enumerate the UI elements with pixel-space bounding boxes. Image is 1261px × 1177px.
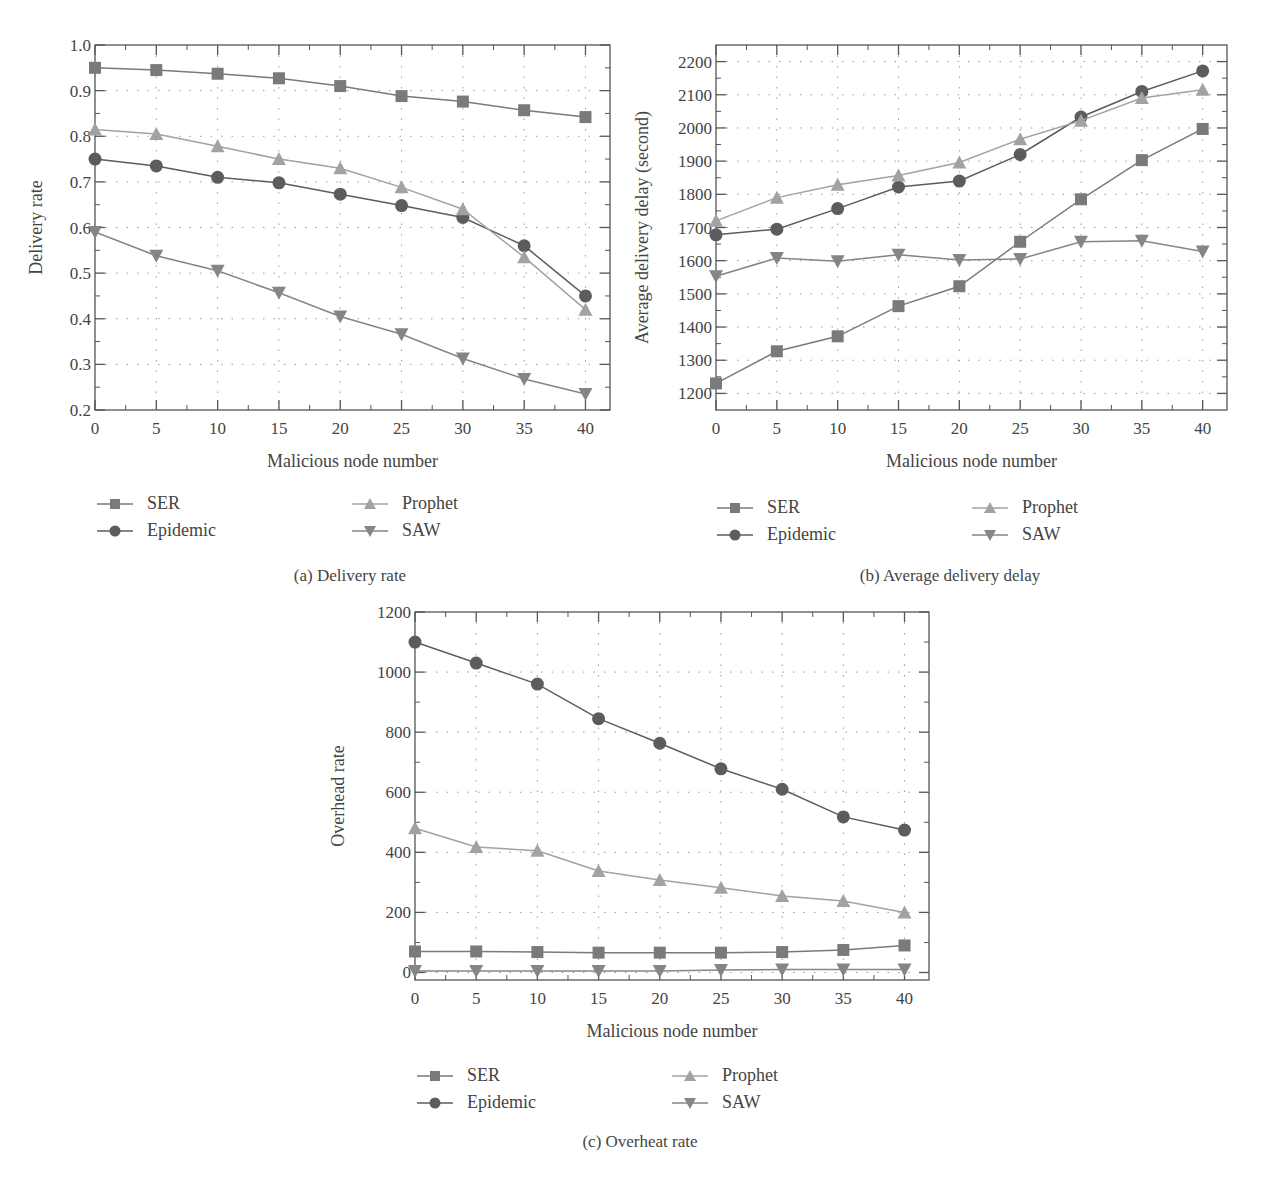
square-marker-icon [832,330,844,342]
x-tick-label: 10 [209,419,226,438]
x-tick-label: 20 [332,419,349,438]
legend-b: SER Epidemic Prophet SAW [715,497,1215,557]
square-marker-icon [771,345,783,357]
y-tick-label: 0.5 [70,264,91,283]
triangle-up-marker-icon [517,250,531,263]
square-marker-icon [89,62,101,74]
y-tick-label: 1700 [678,219,712,238]
triangle-down-marker-icon [211,265,225,278]
plot-frame [95,45,610,410]
circle-marker-icon [653,737,666,750]
triangle-up-marker-icon [1013,132,1027,145]
x-tick-label: 5 [152,419,161,438]
circle-marker-icon [1196,64,1209,77]
circle-marker-icon [898,824,911,837]
grid-lines [716,45,1227,410]
circle-marker-icon [89,153,102,166]
triangle-down-marker-icon [578,388,592,401]
circle-marker-icon [710,228,723,241]
circle-marker-icon [770,223,783,236]
y-axis-label: Delivery rate [26,180,46,274]
legend-c: SER Epidemic Prophet SAW [415,1065,915,1125]
triangle-up-marker-icon [350,497,390,511]
caption-a: (a) Delivery rate [200,566,500,586]
x-tick-label: 20 [651,989,668,1008]
y-tick-label: 600 [386,783,412,802]
square-marker-icon [430,1071,440,1081]
y-tick-label: 1.0 [70,36,91,55]
square-marker-icon [470,945,482,957]
triangle-down-marker-icon [350,524,390,538]
x-tick-label: 30 [1073,419,1090,438]
plot-frame [415,612,929,980]
triangle-down-marker-icon [272,287,286,300]
y-tick-label: 1800 [678,185,712,204]
circle-marker-icon [110,525,121,536]
square-marker-icon [1075,193,1087,205]
y-tick-label: 1400 [678,318,712,337]
axis-ticks [415,612,929,980]
square-marker-icon [776,946,788,958]
circle-marker-icon [409,636,422,649]
y-tick-label: 1900 [678,152,712,171]
square-marker-icon [730,503,740,513]
square-marker-icon [893,300,905,312]
legend-item-prophet: Prophet [350,493,458,514]
x-tick-label: 10 [829,419,846,438]
y-tick-label: 400 [386,843,412,862]
square-marker-icon [415,1069,455,1083]
triangle-down-marker-icon [831,255,845,268]
circle-marker-icon [953,175,966,188]
square-marker-icon [1136,154,1148,166]
legend-item-prophet: Prophet [970,497,1078,518]
circle-marker-icon [831,202,844,215]
square-marker-icon [457,96,469,108]
x-tick-label: 15 [890,419,907,438]
legend-item-saw: SAW [670,1092,761,1113]
circle-marker-icon [715,528,755,542]
y-axis-label: Average delivery delay (second) [632,111,653,344]
axis-ticks [95,45,610,410]
y-tick-label: 0.2 [70,401,91,420]
square-marker-icon [1014,236,1026,248]
x-tick-label: 15 [270,419,287,438]
legend-item-epidemic: Epidemic [95,520,216,541]
legend-item-epidemic: Epidemic [715,524,836,545]
square-marker-icon [579,111,591,123]
x-tick-label: 25 [393,419,410,438]
circle-marker-icon [150,159,163,172]
legend-item-ser: SER [95,493,180,514]
x-tick-label: 0 [411,989,420,1008]
triangle-up-marker-icon [395,180,409,193]
triangle-down-marker-icon [333,310,347,323]
triangle-up-marker-icon [952,155,966,168]
y-tick-label: 0.3 [70,355,91,374]
legend-item-ser: SER [415,1065,500,1086]
average-delivery-delay-chart: 1200130014001500160017001800190020002100… [630,0,1261,480]
square-marker-icon [212,68,224,80]
square-marker-icon [654,947,666,959]
y-tick-label: 2100 [678,86,712,105]
series-saw [408,963,912,978]
x-axis-label: Malicious node number [267,451,438,471]
square-marker-icon [953,280,965,292]
square-marker-icon [837,944,849,956]
circle-marker-icon [579,289,592,302]
x-tick-label: 40 [577,419,594,438]
square-marker-icon [396,90,408,102]
y-tick-label: 0.4 [70,310,92,329]
overhead-rate-chart: 0200400600800100012000510152025303540Mal… [320,590,960,1050]
plot-frame [716,45,1227,410]
series-epidemic [710,64,1210,241]
axis-ticks [716,45,1227,410]
y-axis-label: Overhead rate [328,745,348,846]
square-marker-icon [1197,123,1209,135]
triangle-down-marker-icon [970,528,1010,542]
x-tick-label: 35 [835,989,852,1008]
y-tick-label: 800 [386,723,412,742]
x-tick-label: 0 [712,419,721,438]
y-tick-label: 0.8 [70,127,91,146]
square-marker-icon [715,947,727,959]
triangle-up-marker-icon [469,840,483,853]
circle-marker-icon [531,678,544,691]
